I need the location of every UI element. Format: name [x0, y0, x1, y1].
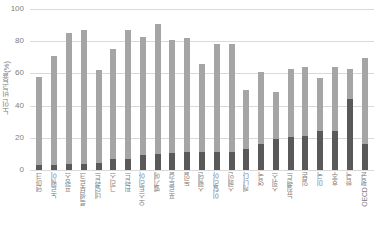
bar-group — [62, 9, 77, 170]
x-tick-label: 영국 — [258, 172, 265, 186]
x-tick-label: 한국 — [346, 172, 353, 186]
bar-group — [298, 9, 313, 170]
bar-segment-upper — [258, 72, 264, 144]
bar-group — [313, 9, 328, 170]
stacked-bar[interactable] — [36, 77, 42, 170]
bar-segment-upper — [36, 77, 42, 166]
x-tick-label-cell: 그리스 — [106, 172, 121, 224]
x-tick-label: 노르웨이 — [51, 172, 58, 199]
bar-group — [283, 9, 298, 170]
stacked-bar[interactable] — [347, 69, 353, 170]
bar-segment-upper — [140, 37, 146, 155]
y-tick-label: 40 — [15, 102, 24, 110]
bar-series-container — [30, 9, 374, 170]
bar-group — [150, 9, 165, 170]
x-tick-label: 룩셈부르크 — [80, 172, 87, 206]
bar-segment-upper — [125, 30, 131, 159]
y-tick-label: 0 — [20, 166, 24, 174]
stacked-bar[interactable] — [169, 40, 175, 170]
bar-segment-lower — [243, 149, 249, 170]
bar-segment-lower — [347, 99, 353, 170]
x-tick-label-cell: 캐나다 — [239, 172, 254, 224]
x-axis-tick-labels: 덴마크노르웨이프랑스룩셈부르크네덜란드그리스핀란드오스트리아벨기에포르투갈독일스… — [30, 172, 374, 224]
stacked-bar[interactable] — [302, 67, 308, 170]
bar-chart: 노인 빈곤율(%) 020406080100 덴마크노르웨이프랑스룩셈부르크네덜… — [0, 0, 377, 231]
stacked-bar[interactable] — [273, 92, 279, 170]
x-tick-label: 캐나다 — [243, 172, 250, 192]
stacked-bar[interactable] — [258, 72, 264, 170]
x-tick-label-cell: OECD 평균 — [357, 172, 372, 224]
x-tick-label: 스페인 — [228, 172, 235, 192]
x-tick-label-cell: 호주 — [328, 172, 343, 224]
bar-group — [224, 9, 239, 170]
x-tick-label-cell: 덴마크 — [32, 172, 47, 224]
x-tick-label-cell: 뉴질랜드 — [283, 172, 298, 224]
stacked-bar[interactable] — [66, 33, 72, 170]
bar-segment-lower — [229, 152, 235, 171]
x-tick-label-cell: 스위스 — [269, 172, 284, 224]
x-tick-label-cell: 오스트리아 — [135, 172, 150, 224]
x-tick-label: 뉴질랜드 — [287, 172, 294, 199]
x-tick-label-cell: 스페인 — [224, 172, 239, 224]
bar-segment-upper — [184, 38, 190, 152]
bar-group — [121, 9, 136, 170]
stacked-bar[interactable] — [362, 58, 368, 170]
stacked-bar[interactable] — [125, 30, 131, 170]
bar-segment-upper — [199, 64, 205, 152]
x-tick-label: 포르투갈 — [169, 172, 176, 199]
stacked-bar[interactable] — [229, 44, 235, 170]
x-tick-label-cell: 미국 — [313, 172, 328, 224]
bar-segment-upper — [362, 58, 368, 144]
bar-segment-upper — [169, 40, 175, 153]
bar-group — [106, 9, 121, 170]
x-tick-label-cell: 룩셈부르크 — [76, 172, 91, 224]
y-axis-title-text: 노인 빈곤율(%) — [3, 61, 11, 115]
x-tick-label: 일본 — [302, 172, 309, 186]
bar-segment-upper — [110, 49, 116, 158]
bar-segment-upper — [66, 33, 72, 164]
stacked-bar[interactable] — [110, 49, 116, 170]
stacked-bar[interactable] — [243, 90, 249, 170]
bar-group — [357, 9, 372, 170]
stacked-bar[interactable] — [288, 69, 294, 170]
stacked-bar[interactable] — [51, 56, 57, 170]
stacked-bar[interactable] — [140, 37, 146, 170]
x-tick-label-cell: 벨기에 — [150, 172, 165, 224]
bar-segment-upper — [288, 69, 294, 137]
x-tick-label: 네덜란드 — [95, 172, 102, 199]
x-tick-label-cell: 독일 — [180, 172, 195, 224]
x-tick-label-cell: 네덜란드 — [91, 172, 106, 224]
bar-segment-upper — [155, 24, 161, 154]
x-tick-label: 스위스 — [272, 172, 279, 192]
bar-segment-lower — [155, 154, 161, 170]
bar-group — [195, 9, 210, 170]
bar-segment-upper — [81, 30, 87, 164]
bar-segment-upper — [96, 70, 102, 163]
bar-segment-upper — [332, 67, 338, 131]
bar-group — [239, 9, 254, 170]
bar-group — [269, 9, 284, 170]
stacked-bar[interactable] — [81, 30, 87, 170]
x-tick-label: 오스트리아 — [139, 172, 146, 206]
bar-group — [180, 9, 195, 170]
stacked-bar[interactable] — [155, 24, 161, 170]
stacked-bar[interactable] — [317, 78, 323, 170]
x-tick-label: 이탈리아 — [213, 172, 220, 199]
stacked-bar[interactable] — [332, 67, 338, 170]
bar-segment-upper — [273, 92, 279, 139]
bar-group — [342, 9, 357, 170]
bar-segment-upper — [347, 69, 353, 99]
bar-group — [254, 9, 269, 170]
x-tick-label: OECD 평균 — [361, 172, 368, 207]
stacked-bar[interactable] — [199, 64, 205, 170]
stacked-bar[interactable] — [214, 44, 220, 170]
stacked-bar[interactable] — [184, 38, 190, 170]
bar-segment-lower — [96, 163, 102, 170]
x-tick-label-cell: 핀란드 — [121, 172, 136, 224]
x-tick-label: 스웨덴 — [198, 172, 205, 192]
x-tick-label: 프랑스 — [65, 172, 72, 192]
x-tick-label-cell: 스웨덴 — [195, 172, 210, 224]
x-tick-label-cell: 프랑스 — [62, 172, 77, 224]
stacked-bar[interactable] — [96, 70, 102, 170]
bar-segment-upper — [214, 44, 220, 151]
